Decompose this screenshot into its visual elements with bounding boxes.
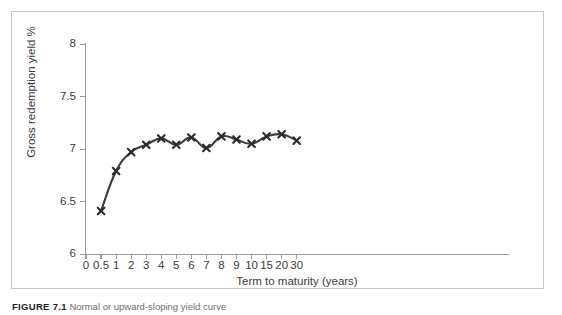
y-tick-mark — [80, 201, 85, 202]
x-tick-label: 0 — [83, 260, 89, 272]
y-tick-label: 7 — [44, 143, 76, 155]
x-tick-label: 1 — [113, 260, 119, 272]
y-tick-label-text: 6 — [46, 248, 76, 260]
y-tick-label: 7.5 — [44, 91, 76, 103]
x-tick-label: 2 — [128, 260, 134, 272]
y-tick-label: 6.5 — [44, 196, 76, 208]
y-tick-mark — [80, 149, 85, 150]
figure-border — [11, 11, 544, 289]
x-tick-label: 20 — [275, 260, 288, 272]
x-tick-label: 3 — [143, 260, 149, 272]
y-tick-mark — [80, 254, 85, 255]
x-axis-title: Term to maturity (years) — [86, 275, 508, 287]
figure-caption-text: Normal or upward-sloping yield curve — [69, 301, 226, 312]
x-tick-label: 0.5 — [93, 260, 109, 272]
x-tick-label: 30 — [290, 260, 303, 272]
x-tick-label: 7 — [203, 260, 209, 272]
y-tick-label-text: 8 — [46, 38, 76, 50]
x-tick-label: 8 — [218, 260, 224, 272]
y-tick-label: 6 — [44, 248, 76, 260]
y-tick-label-text: 7 — [46, 143, 76, 155]
y-tick-label: 8 — [44, 38, 76, 50]
figure-caption-number: FIGURE 7.1 — [12, 301, 67, 312]
y-tick-label-text: 6.5 — [46, 196, 76, 208]
x-tick-label: 10 — [245, 260, 258, 272]
figure-caption: FIGURE 7.1 Normal or upward-sloping yiel… — [12, 301, 552, 312]
y-tick-label-text: 7.5 — [46, 91, 76, 103]
x-tick-label: 4 — [158, 260, 164, 272]
y-axis-title: Gross redemption yield % — [25, 17, 37, 167]
x-tick-label: 15 — [260, 260, 273, 272]
figure-root: 66.577.58 00.512345678910152030 Gross re… — [0, 0, 562, 315]
x-tick-label: 9 — [233, 260, 239, 272]
y-axis-line — [85, 43, 86, 255]
y-tick-mark — [80, 96, 85, 97]
x-tick-label: 5 — [173, 260, 179, 272]
x-tick-label: 6 — [188, 260, 194, 272]
y-tick-mark — [80, 44, 85, 45]
